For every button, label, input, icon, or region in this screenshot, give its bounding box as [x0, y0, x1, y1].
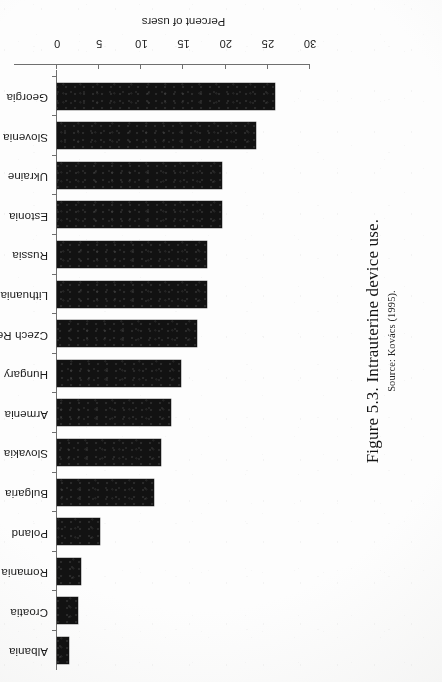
x-axis-title: Percent of users — [57, 16, 310, 28]
category-label: Romania — [1, 567, 48, 579]
value-tick-label: 10 — [126, 38, 156, 50]
value-tick-mark — [225, 64, 226, 69]
category-label: Slovenia — [3, 132, 48, 144]
bar — [57, 241, 207, 268]
category-tick-mark — [52, 551, 57, 552]
category-tick-mark — [52, 234, 57, 235]
category-label: Ukraine — [8, 171, 48, 183]
category-label: Estonia — [9, 211, 48, 223]
category-tick-mark — [52, 392, 57, 393]
value-tick-label: 20 — [211, 38, 241, 50]
bar — [57, 597, 78, 624]
category-tick-mark — [52, 472, 57, 473]
bar-chart: 051015202530 AlbaniaCroatiaRomaniaPoland… — [14, 8, 310, 674]
category-tick-mark — [52, 155, 57, 156]
bar — [57, 281, 207, 308]
category-label: Armenia — [4, 409, 48, 421]
category-label: Czech Republic — [0, 330, 48, 342]
bar — [57, 399, 171, 426]
category-tick-mark — [52, 115, 57, 116]
bar — [57, 439, 161, 466]
bar — [57, 637, 69, 664]
value-tick-label: 25 — [253, 38, 283, 50]
bar — [57, 162, 222, 189]
bar — [57, 479, 154, 506]
value-tick-label: 5 — [84, 38, 114, 50]
category-tick-mark — [52, 194, 57, 195]
category-tick-mark — [52, 432, 57, 433]
category-label: Croatia — [10, 607, 48, 619]
category-tick-mark — [52, 353, 57, 354]
category-label: Bulgaria — [5, 488, 48, 500]
bar — [57, 83, 275, 110]
value-tick-label: 15 — [169, 38, 199, 50]
value-tick-mark — [309, 64, 310, 69]
value-tick-mark — [183, 64, 184, 69]
bar — [57, 201, 222, 228]
value-tick-mark — [140, 64, 141, 69]
value-tick-mark — [98, 64, 99, 69]
category-label: Poland — [12, 528, 48, 540]
value-tick-label: 0 — [42, 38, 72, 50]
scanned-page: 051015202530 AlbaniaCroatiaRomaniaPoland… — [0, 0, 442, 682]
category-tick-mark — [52, 76, 57, 77]
category-label: Russia — [12, 251, 48, 263]
bar — [57, 122, 256, 149]
category-label: Hungary — [4, 369, 48, 381]
category-tick-mark — [52, 511, 57, 512]
category-label: Lithuania — [0, 290, 48, 302]
value-axis-line — [14, 64, 310, 65]
category-label: Georgia — [6, 92, 48, 104]
category-tick-mark — [52, 313, 57, 314]
value-tick-mark — [267, 64, 268, 69]
category-label: Albania — [9, 647, 48, 659]
category-tick-mark — [52, 630, 57, 631]
category-label: Slovakia — [4, 449, 48, 461]
figure-caption-source: Source: Kovács (1995). — [386, 290, 397, 392]
category-tick-mark — [52, 590, 57, 591]
figure-caption: Figure 5.3. Intrauterine device use. Sou… — [318, 0, 442, 682]
bar — [57, 518, 100, 545]
bar — [57, 558, 81, 585]
value-tick-mark — [56, 64, 57, 69]
figure-caption-title: Figure 5.3. Intrauterine device use. — [363, 219, 383, 464]
plot-area: 051015202530 AlbaniaCroatiaRomaniaPoland… — [14, 8, 310, 674]
bar — [57, 320, 197, 347]
category-tick-mark — [52, 274, 57, 275]
bar — [57, 360, 181, 387]
